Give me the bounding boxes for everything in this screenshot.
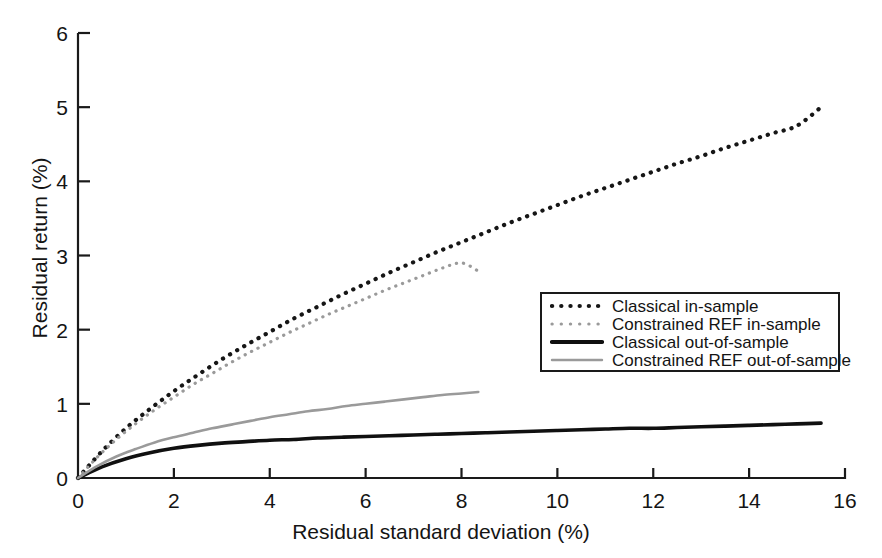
x-tick-label: 6 [360,490,372,511]
legend-item[interactable]: Classical out-of-sample [550,333,838,351]
y-tick-label: 6 [40,23,68,44]
legend-item-label: Constrained REF out-of-sample [612,352,851,369]
legend-line-swatch [550,299,604,313]
legend-item-label: Classical out-of-sample [612,334,789,351]
series-line [78,263,478,478]
x-tick-label: 0 [72,490,84,511]
x-tick-label: 12 [642,490,665,511]
legend-item-label: Classical in-sample [612,298,758,315]
legend-line-swatch [550,317,604,331]
legend: Classical in-sampleConstrained REF in-sa… [540,292,840,372]
x-tick-label: 14 [737,490,760,511]
y-axis-title: Residual return (%) [28,48,52,448]
legend-line-swatch [550,353,604,367]
legend-item[interactable]: Constrained REF in-sample [550,315,838,333]
chart-container: 0246810121416 0123456 Residual standard … [0,0,882,558]
plot-area [0,0,882,558]
x-tick-label: 10 [546,490,569,511]
x-tick-label: 4 [264,490,276,511]
series-line [78,423,821,478]
legend-item-label: Constrained REF in-sample [612,316,821,333]
y-tick-label: 0 [40,468,68,489]
x-tick-label: 16 [833,490,856,511]
axis-lines [78,33,845,478]
x-tick-label: 2 [168,490,180,511]
x-tick-label: 8 [456,490,468,511]
x-axis-title: Residual standard deviation (%) [0,520,882,544]
legend-line-swatch [550,335,604,349]
legend-item[interactable]: Constrained REF out-of-sample [550,351,838,369]
legend-item[interactable]: Classical in-sample [550,297,838,315]
